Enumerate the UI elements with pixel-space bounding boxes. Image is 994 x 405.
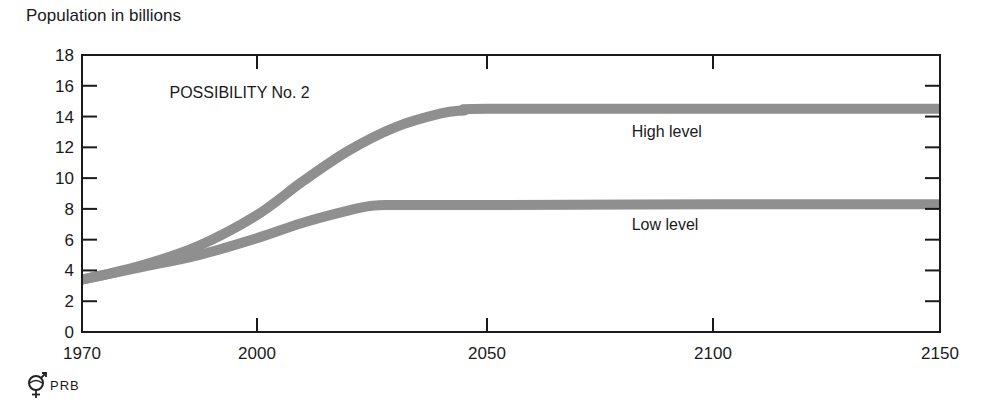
x-tick-label: 2100 [694,344,732,363]
y-tick-label: 4 [65,261,74,280]
gender-symbol-icon [26,370,48,400]
y-tick-label: 18 [55,46,74,65]
annotation-possibility-no-2: POSSIBILITY No. 2 [170,84,310,101]
y-tick-label: 14 [55,108,74,127]
prb-logo: PRB [26,370,80,400]
y-tick-label: 0 [65,323,74,342]
y-tick-label: 16 [55,77,74,96]
x-tick-label: 2000 [238,344,276,363]
y-tick-label: 12 [55,138,74,157]
logo-text: PRB [50,378,80,393]
line-chart: 02468101214161819702000205021002150POSSI… [0,0,994,405]
x-tick-label: 2050 [468,344,506,363]
y-tick-label: 10 [55,169,74,188]
annotation-high-level: High level [632,123,702,140]
y-tick-label: 8 [65,200,74,219]
x-tick-label: 2150 [921,344,959,363]
x-tick-label: 1970 [63,344,101,363]
annotation-low-level: Low level [632,216,699,233]
y-tick-label: 2 [65,292,74,311]
y-tick-label: 6 [65,231,74,250]
